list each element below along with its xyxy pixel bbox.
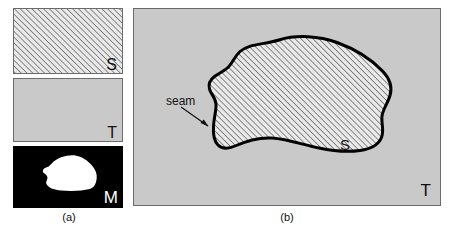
panel-a: S T M — [13, 8, 125, 204]
thumbnail-target-label: T — [107, 125, 117, 141]
thumbnail-mask: M — [13, 146, 123, 208]
seam-label: seam — [166, 95, 195, 107]
thumbnail-source-label: S — [106, 57, 117, 73]
thumbnail-mask-label: M — [104, 189, 118, 206]
caption-panel-a: (a) — [13, 212, 125, 223]
seam-outline — [209, 37, 391, 152]
thumbnail-target: T — [13, 78, 123, 142]
panel-b-source-label: S — [340, 137, 350, 152]
panel-b: seam S T — [133, 8, 441, 206]
thumbnail-source: S — [13, 8, 123, 74]
figure-container: S T M (a) — [0, 0, 457, 236]
caption-panel-b: (b) — [133, 212, 441, 223]
panel-b-target-label: T — [421, 182, 431, 199]
